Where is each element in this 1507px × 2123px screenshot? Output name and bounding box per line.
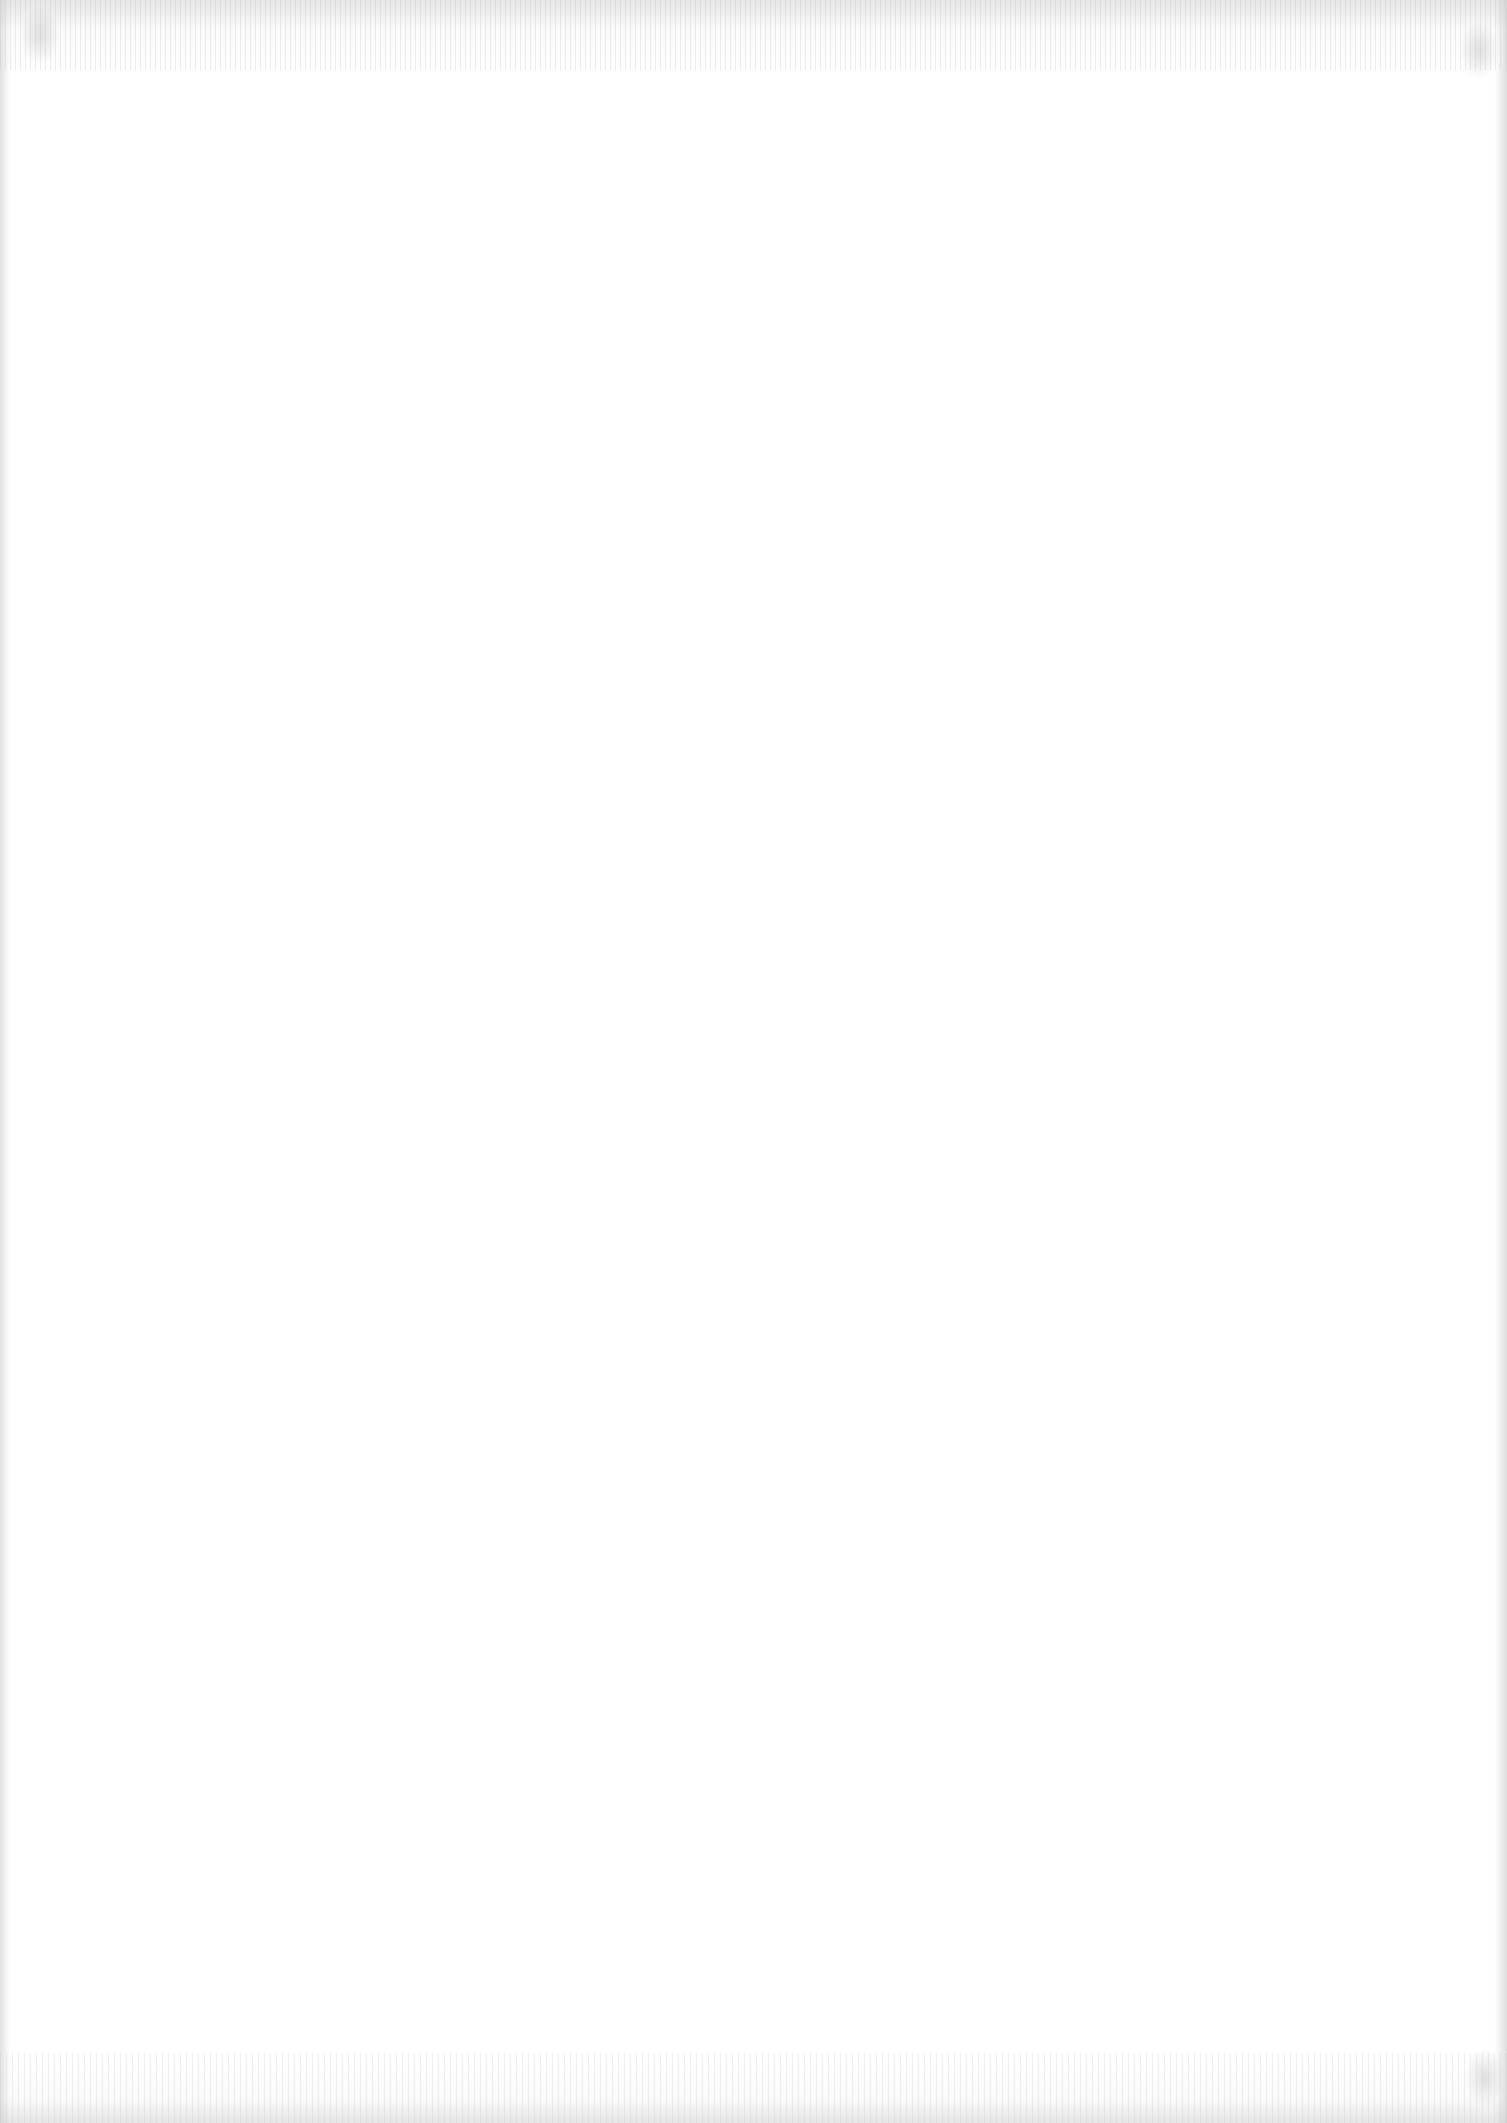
scan-smudge-top-left [20,5,60,65]
scan-noise-left-edge [0,0,10,2123]
scan-smudge-bottom-right [1465,2048,1505,2108]
scan-noise-bottom-edge [0,2053,1507,2123]
scan-smudge-top-right [1459,20,1499,80]
scan-noise-right-edge [1495,0,1507,2123]
blank-document-page [0,0,1507,2123]
scan-noise-top-edge [0,0,1507,70]
